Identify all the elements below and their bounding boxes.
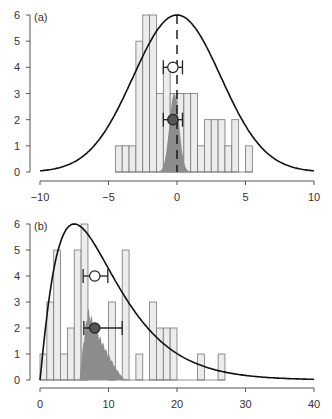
panel-b: 0123456010203040(b) [14, 218, 320, 410]
x-tick-label: 0 [174, 191, 180, 203]
histogram-bar [163, 328, 170, 380]
x-tick-label: 0 [37, 398, 43, 410]
y-tick-label: 1 [14, 140, 20, 152]
x-tick-label: 10 [102, 398, 114, 410]
histogram-bar [225, 146, 232, 172]
y-tick-label: 5 [14, 244, 20, 256]
x-tick-label: 20 [171, 398, 183, 410]
histogram-bar [156, 94, 163, 173]
histogram-bar [198, 146, 205, 172]
open-circle-marker [90, 271, 100, 281]
x-tick-label: 30 [239, 398, 251, 410]
y-tick-label: 5 [14, 35, 20, 47]
histogram [40, 224, 225, 380]
histogram-bar [218, 120, 225, 172]
histogram-bar [122, 146, 129, 172]
histogram-bar [74, 250, 81, 380]
x-axis: −10−50510 [31, 181, 320, 203]
histogram-bar [204, 120, 211, 172]
histogram-bar [143, 15, 150, 172]
x-tick-label: −5 [102, 191, 115, 203]
y-axis: 0123456 [14, 218, 30, 386]
histogram [115, 15, 252, 172]
y-tick-label: 0 [14, 374, 20, 386]
panel-label: (a) [34, 11, 47, 23]
x-tick-label: −10 [31, 191, 50, 203]
x-axis: 010203040 [37, 388, 320, 410]
histogram-bar [136, 354, 143, 380]
histogram-bar [122, 250, 129, 380]
histogram-bar [150, 15, 157, 172]
histogram-bar [61, 354, 68, 380]
histogram-bar [170, 328, 177, 380]
histogram-bar [67, 328, 74, 380]
filled-circle-marker [168, 114, 178, 124]
histogram-bar [115, 146, 122, 172]
x-tick-label: 5 [242, 191, 248, 203]
two-panel-histogram-figure: 0123456−10−50510(a) 0123456010203040(b) [0, 0, 332, 419]
histogram-bar [156, 328, 163, 380]
open-circle-marker [168, 62, 178, 72]
histogram-bar [136, 41, 143, 172]
histogram-bar [150, 302, 157, 380]
histogram-bar [54, 250, 61, 380]
histogram-bar [129, 146, 136, 172]
y-tick-label: 0 [14, 166, 20, 178]
histogram-bar [211, 120, 218, 172]
panel-label: (b) [34, 220, 47, 232]
panel-a: 0123456−10−50510(a) [14, 9, 320, 203]
y-tick-label: 6 [14, 218, 20, 230]
histogram-bar [246, 146, 253, 172]
y-tick-label: 3 [14, 296, 20, 308]
y-tick-label: 6 [14, 9, 20, 21]
histogram-bar [232, 120, 239, 172]
y-tick-label: 4 [14, 270, 20, 282]
x-tick-label: 10 [308, 191, 320, 203]
figure: 0123456−10−50510(a) 0123456010203040(b) [0, 0, 332, 419]
histogram-bar [218, 354, 225, 380]
y-tick-label: 1 [14, 348, 20, 360]
y-tick-label: 2 [14, 114, 20, 126]
histogram-bar [191, 94, 198, 173]
y-tick-label: 4 [14, 61, 20, 73]
histogram-bar [184, 94, 191, 173]
y-axis: 0123456 [14, 9, 30, 178]
x-tick-label: 40 [308, 398, 320, 410]
filled-circle-marker [90, 323, 100, 333]
y-tick-label: 2 [14, 322, 20, 334]
y-tick-label: 3 [14, 88, 20, 100]
